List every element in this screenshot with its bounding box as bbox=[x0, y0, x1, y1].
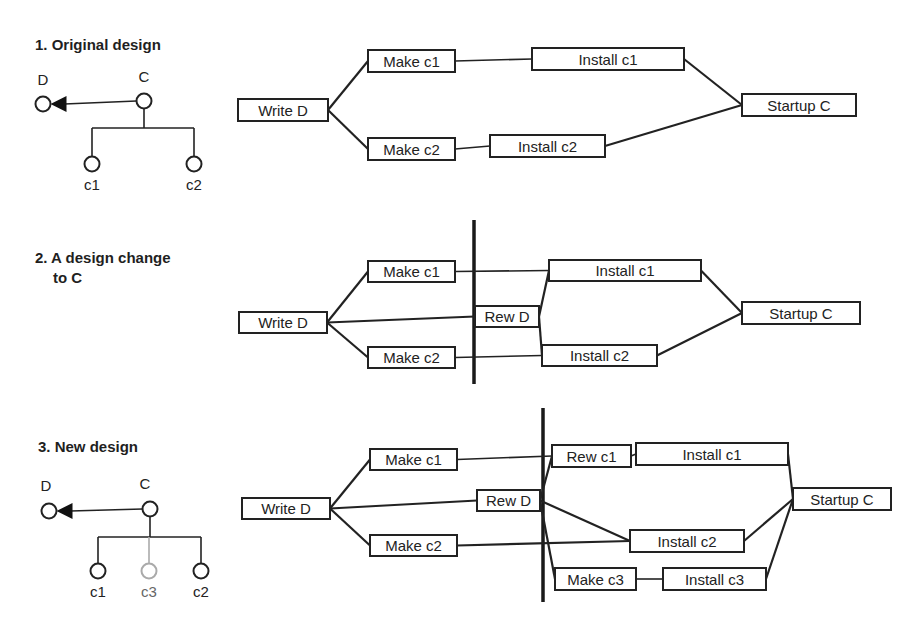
component-tree: DCc1c2 bbox=[36, 68, 202, 193]
task-box-makeC2: Make c2 bbox=[368, 347, 455, 368]
link-makeC1-instC1 bbox=[455, 271, 549, 272]
section-title: 2. A design change bbox=[35, 249, 171, 266]
task-box-writeD: Write D bbox=[238, 99, 328, 121]
task-box-instC1: Install c1 bbox=[636, 443, 788, 465]
task-label: Install c2 bbox=[657, 533, 716, 550]
task-box-startC: Startup C bbox=[793, 488, 891, 510]
node-label-d: D bbox=[38, 71, 49, 88]
node-label-c: C bbox=[140, 475, 151, 492]
link-makeC2-instC2 bbox=[455, 356, 542, 358]
task-label: Rew c1 bbox=[566, 448, 616, 465]
node-c1 bbox=[91, 564, 106, 579]
section-title: to C bbox=[53, 269, 82, 286]
task-box-makeC2: Make c2 bbox=[370, 535, 457, 556]
node-c2 bbox=[187, 157, 202, 172]
task-label: Install c2 bbox=[518, 138, 577, 155]
link-makeC1-rewC1 bbox=[457, 456, 552, 460]
task-label: Startup C bbox=[767, 97, 831, 114]
task-label: Make c2 bbox=[383, 349, 440, 366]
node-d bbox=[42, 504, 57, 519]
task-box-instC1: Install c1 bbox=[532, 48, 684, 70]
task-box-writeD: Write D bbox=[239, 312, 327, 333]
task-box-makeC1: Make c1 bbox=[370, 449, 457, 470]
section-title: 1. Original design bbox=[35, 36, 161, 53]
node-label-d: D bbox=[41, 477, 52, 494]
task-label: Install c1 bbox=[578, 51, 637, 68]
node-c bbox=[137, 94, 152, 109]
node-label-c3: c3 bbox=[141, 583, 157, 600]
link-writeD-makeC1 bbox=[328, 61, 368, 110]
task-label: Rew D bbox=[486, 492, 531, 509]
task-label: Write D bbox=[258, 314, 308, 331]
node-label-c1: c1 bbox=[90, 583, 106, 600]
section-title: 3. New design bbox=[38, 438, 138, 455]
link-instC1-startC bbox=[684, 59, 742, 105]
task-box-rewD: Rew D bbox=[475, 306, 539, 327]
task-box-makeC1: Make c1 bbox=[368, 261, 455, 282]
link-rewD-instC2 bbox=[540, 501, 630, 542]
node-label-c2: c2 bbox=[193, 583, 209, 600]
link-writeD-makeC2 bbox=[328, 110, 368, 149]
task-label: Write D bbox=[258, 102, 308, 119]
task-box-instC2: Install c2 bbox=[490, 135, 605, 157]
task-box-rewD: Rew D bbox=[477, 490, 540, 511]
link-writeD-rewD bbox=[327, 317, 475, 323]
task-label: Startup C bbox=[810, 491, 874, 508]
component-tree: DCc1c3c2 bbox=[41, 475, 209, 600]
link-makeC1-instC1 bbox=[455, 59, 532, 61]
task-label: Startup C bbox=[769, 305, 833, 322]
link-writeD-makeC1 bbox=[330, 460, 370, 509]
task-box-writeD: Write D bbox=[242, 498, 330, 519]
node-c1 bbox=[85, 157, 100, 172]
link-writeD-rewD bbox=[330, 501, 477, 509]
link-instC2-startC bbox=[657, 313, 742, 356]
task-label: Install c1 bbox=[682, 446, 741, 463]
section-1: 1. Original designDCc1c2Write DMake c1Ma… bbox=[35, 36, 856, 193]
link-writeD-makeC2 bbox=[327, 323, 368, 358]
task-box-startC: Startup C bbox=[742, 302, 860, 324]
task-label: Install c1 bbox=[595, 262, 654, 279]
node-c3 bbox=[142, 564, 157, 579]
task-box-makeC1: Make c1 bbox=[368, 50, 455, 72]
task-label: Make c3 bbox=[567, 571, 624, 588]
node-label-c2: c2 bbox=[186, 176, 202, 193]
arrowhead-icon bbox=[51, 96, 67, 112]
section-3: 3. New designDCc1c3c2Write DMake c1Make … bbox=[38, 408, 891, 602]
task-label: Install c3 bbox=[685, 571, 744, 588]
task-box-makeC2: Make c2 bbox=[368, 138, 455, 160]
node-label-c: C bbox=[139, 68, 150, 85]
link-makeC2-instC2 bbox=[455, 146, 490, 149]
task-box-instC1: Install c1 bbox=[549, 260, 701, 281]
node-c bbox=[143, 502, 158, 517]
dependency-edge bbox=[71, 509, 143, 511]
task-box-rewC1: Rew c1 bbox=[552, 445, 631, 467]
task-box-instC3: Install c3 bbox=[663, 568, 766, 590]
task-label: Make c2 bbox=[383, 141, 440, 158]
task-box-instC2: Install c2 bbox=[630, 530, 744, 552]
link-rewD-instC1 bbox=[539, 271, 549, 317]
task-label: Make c1 bbox=[383, 263, 440, 280]
task-label: Install c2 bbox=[570, 347, 629, 364]
design-change-diagram: 1. Original designDCc1c2Write DMake c1Ma… bbox=[0, 0, 922, 635]
task-box-instC2: Install c2 bbox=[542, 345, 657, 366]
task-label: Make c2 bbox=[385, 537, 442, 554]
task-box-makeC3: Make c3 bbox=[555, 568, 636, 590]
link-writeD-makeC1 bbox=[327, 272, 368, 323]
task-links bbox=[330, 454, 793, 579]
node-c2 bbox=[194, 564, 209, 579]
task-label: Make c1 bbox=[385, 451, 442, 468]
arrowhead-icon bbox=[57, 503, 73, 519]
node-d bbox=[36, 97, 51, 112]
link-instC1-startC bbox=[701, 271, 742, 314]
link-writeD-makeC2 bbox=[330, 509, 370, 546]
section-2: 2. A design changeto CWrite DMake c1Make… bbox=[35, 220, 860, 384]
link-instC2-startC bbox=[605, 105, 742, 146]
task-box-startC: Startup C bbox=[742, 94, 856, 116]
task-label: Make c1 bbox=[383, 53, 440, 70]
task-label: Rew D bbox=[484, 308, 529, 325]
task-label: Write D bbox=[261, 500, 311, 517]
node-label-c1: c1 bbox=[84, 176, 100, 193]
dependency-edge bbox=[65, 101, 137, 104]
